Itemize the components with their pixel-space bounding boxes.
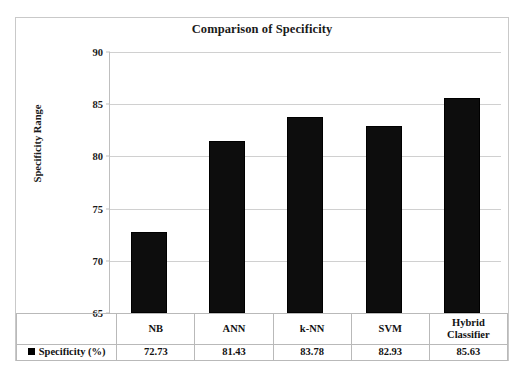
table-value-k-nn: 83.78 [273,344,351,360]
bar-svm[interactable] [366,126,402,313]
table-category-nb: NB [117,314,195,345]
bar-slot [188,52,266,313]
table-category-hybrid-classifier: Hybrid Classifier [429,314,507,345]
y-tick-label-75: 75 [93,203,104,214]
bars-layer [110,52,501,313]
table-value-svm: 82.93 [351,344,429,360]
table-category-ann: ANN [195,314,273,345]
table-row-categories: NBANNk-NNSVMHybrid Classifier [17,314,508,345]
table-corner-blank-cell [17,314,117,345]
bar-slot [345,52,423,313]
legend-swatch-icon [28,348,35,355]
y-axis-title: Specificity Range [32,79,43,209]
table-value-nb: 72.73 [117,344,195,360]
table-category-svm: SVM [351,314,429,345]
bar-slot [266,52,344,313]
y-tick-label-80: 80 [93,151,104,162]
chart-title: Comparison of Specificity [16,22,508,37]
legend-entry-specificity: Specificity (%) [17,344,117,360]
bar-nb[interactable] [131,232,167,313]
y-tick-label-70: 70 [93,255,104,266]
table-value-ann: 81.43 [195,344,273,360]
table-value-hybrid-classifier: 85.63 [429,344,507,360]
plot-area: 657075808590 [109,52,501,313]
bar-k-nn[interactable] [287,117,323,313]
table-row-values: Specificity (%) 72.7381.4383.7882.9385.6… [17,344,508,360]
bar-ann[interactable] [209,141,245,313]
chart-data-table: NBANNk-NNSVMHybrid Classifier Specificit… [16,313,508,361]
y-tick-label-90: 90 [93,47,104,58]
bar-slot [423,52,501,313]
table-category-k-nn: k-NN [273,314,351,345]
data-table: NBANNk-NNSVMHybrid Classifier Specificit… [16,313,508,361]
bar-hybrid-classifier[interactable] [444,98,480,313]
y-tick-label-85: 85 [93,99,104,110]
legend-label: Specificity (%) [39,346,106,357]
bar-slot [110,52,188,313]
chart-frame: Comparison of Specificity Specificity Ra… [15,17,509,361]
